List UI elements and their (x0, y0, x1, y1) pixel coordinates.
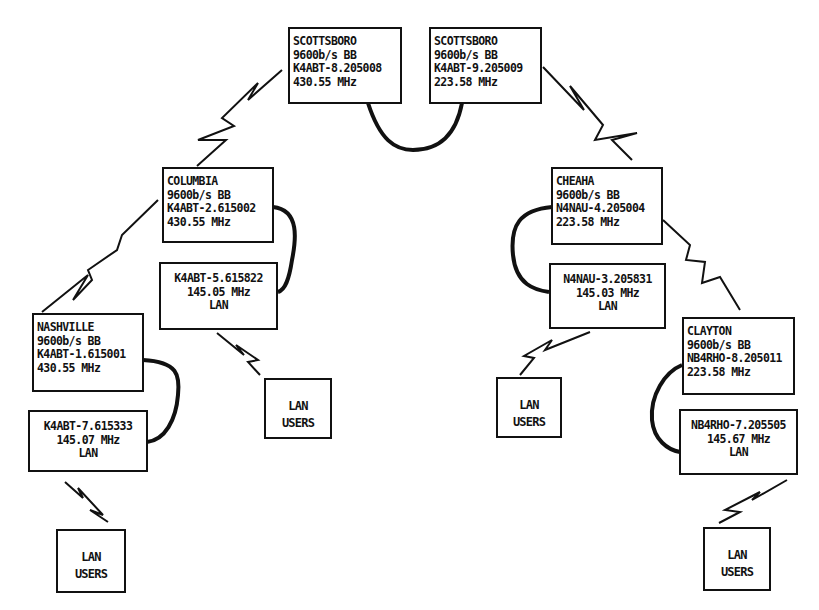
data-rate: 9600b/s BB (167, 189, 272, 203)
frequency: 223.58 MHz (556, 216, 661, 230)
callsign: K4ABT-1.615001 (37, 348, 142, 362)
lan-users-line2: USERS (58, 566, 124, 583)
data-rate: 9600b/s BB (293, 49, 400, 63)
data-rate: 9600b/s BB (434, 49, 540, 63)
frequency: 223.58 MHz (687, 366, 793, 380)
station-box-cheaha: CHEAHA 9600b/s BB N4NAU-4.205004 223.58 … (551, 167, 663, 245)
lan-users-line2: USERS (705, 564, 769, 581)
lan-label: LAN (681, 446, 796, 460)
station-box-nashville: NASHVILLE 9600b/s BB K4ABT-1.615001 430.… (32, 313, 144, 392)
station-name: NASHVILLE (37, 321, 142, 335)
callsign: NB4RHO-8.205011 (687, 352, 793, 366)
callsign: K4ABT-8.205008 (293, 62, 400, 76)
wired-link-nashville (143, 360, 179, 442)
data-rate: 9600b/s BB (37, 335, 142, 349)
lan-users-columbia: LAN USERS (264, 378, 332, 439)
network-diagram: SCOTTSBORO 9600b/s BB K4ABT-8.205008 430… (0, 0, 819, 610)
frequency: 430.55 MHz (293, 76, 400, 90)
lan-users-line1: LAN (266, 398, 330, 415)
lan-users-nashville: LAN USERS (56, 529, 126, 593)
radio-link-scottsboro-columbia (197, 70, 282, 166)
lan-users-line1: LAN (498, 397, 560, 414)
radio-link-scottsboro-cheaha (543, 67, 637, 160)
radio-link-columbia-nashville (42, 200, 158, 312)
frequency: 145.03 MHz (551, 287, 664, 301)
callsign: NB4RHO-7.205505 (681, 419, 796, 433)
data-rate: 9600b/s BB (556, 189, 661, 203)
lan-label: LAN (30, 447, 146, 461)
station-box-columbia: COLUMBIA 9600b/s BB K4ABT-2.615002 430.5… (162, 167, 274, 243)
frequency: 430.55 MHz (167, 216, 272, 230)
station-box-scottsboro-1: SCOTTSBORO 9600b/s BB K4ABT-8.205008 430… (288, 27, 402, 104)
station-box-scottsboro-2: SCOTTSBORO 9600b/s BB K4ABT-9.205009 223… (429, 27, 542, 104)
lan-node-nashville: K4ABT-7.615333 145.07 MHz LAN (28, 410, 148, 472)
callsign: K4ABT-5.615822 (161, 272, 276, 286)
callsign: K4ABT-2.615002 (167, 202, 272, 216)
lan-users-cheaha: LAN USERS (496, 377, 562, 438)
connection-layer (0, 0, 819, 610)
radio-link-cheaha-lan-users (520, 332, 590, 375)
lan-node-clayton: NB4RHO-7.205505 145.67 MHz LAN (679, 409, 798, 475)
station-name: CHEAHA (556, 175, 661, 189)
lan-users-line2: USERS (498, 414, 560, 431)
wired-link-cheaha (512, 207, 552, 292)
station-name: SCOTTSBORO (293, 35, 400, 49)
lan-label: LAN (551, 300, 664, 314)
radio-link-nashville-lan-users (65, 482, 108, 522)
frequency: 145.05 MHz (161, 286, 276, 300)
callsign: N4NAU-4.205004 (556, 202, 661, 216)
station-name: CLAYTON (687, 325, 793, 339)
wired-link-clayton (652, 365, 682, 452)
radio-link-columbia-lan-users (217, 333, 260, 375)
station-name: COLUMBIA (167, 175, 272, 189)
radio-link-cheaha-clayton (663, 220, 740, 310)
lan-node-columbia: K4ABT-5.615822 145.05 MHz LAN (159, 262, 278, 330)
lan-users-line2: USERS (266, 415, 330, 432)
lan-users-line1: LAN (705, 547, 769, 564)
callsign: K4ABT-9.205009 (434, 62, 540, 76)
frequency: 145.07 MHz (30, 434, 146, 448)
data-rate: 9600b/s BB (687, 339, 793, 353)
lan-users-line1: LAN (58, 549, 124, 566)
callsign: K4ABT-7.615333 (30, 420, 146, 434)
radio-link-clayton-lan-users (719, 480, 787, 523)
lan-users-clayton: LAN USERS (703, 527, 771, 591)
station-name: SCOTTSBORO (434, 35, 540, 49)
lan-label: LAN (161, 299, 276, 313)
wired-link-scottsboro (368, 103, 462, 150)
callsign: N4NAU-3.205831 (551, 273, 664, 287)
frequency: 430.55 MHz (37, 362, 142, 376)
frequency: 223.58 MHz (434, 76, 540, 90)
lan-node-cheaha: N4NAU-3.205831 145.03 MHz LAN (549, 263, 666, 329)
frequency: 145.67 MHz (681, 433, 796, 447)
station-box-clayton: CLAYTON 9600b/s BB NB4RHO-8.205011 223.5… (682, 317, 795, 395)
